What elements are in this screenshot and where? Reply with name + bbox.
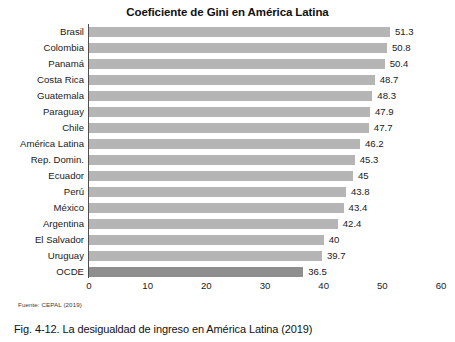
bar-track [89,171,353,181]
x-axis-tick-label: 0 [86,280,91,291]
bar-track [89,251,322,261]
bar-track [89,123,369,133]
category-label: Costa Rica [0,72,84,88]
x-axis-tick-label: 40 [318,280,329,291]
bar-row: Panamá50.4 [0,56,455,72]
bar [89,219,338,229]
category-label: Perú [0,184,84,200]
bar-value-label: 48.7 [380,72,399,88]
bar-row: México43.4 [0,200,455,216]
figure-container: Coeficiente de Gini en América Latina Br… [0,0,455,342]
bar-value-label: 43.8 [351,184,370,200]
plot-area: Brasil51.3Colombia50.8Panamá50.4Costa Ri… [0,24,455,280]
bar-value-label: 43.4 [349,200,368,216]
x-axis-tick-label: 60 [436,280,447,291]
bar-row: Perú43.8 [0,184,455,200]
category-label: Chile [0,120,84,136]
bar-track [89,91,372,101]
bar-value-label: 50.4 [390,56,409,72]
bar-row: Rep. Domin.45.3 [0,152,455,168]
bar [89,139,360,149]
bar-value-label: 50.8 [392,40,411,56]
category-label: Paraguay [0,104,84,120]
bar [89,75,375,85]
bar-track [89,267,303,277]
bar [89,155,355,165]
bar-row: El Salvador40 [0,232,455,248]
bar-track [89,75,375,85]
bar-value-label: 40 [329,232,340,248]
source-note: Fuente: CEPAL (2019) [18,301,82,308]
bar [89,235,324,245]
bar-track [89,43,387,53]
x-axis-tick-label: 30 [260,280,271,291]
category-label: Brasil [0,24,84,40]
bar [89,107,370,117]
category-label: América Latina [0,136,84,152]
bar-track [89,155,355,165]
bar-row: Uruguay39.7 [0,248,455,264]
bar [89,43,387,53]
x-axis-tick-label: 10 [142,280,153,291]
bar [89,251,322,261]
bar-track [89,187,346,197]
bar [89,27,390,37]
bar [89,59,385,69]
figure-caption: Fig. 4-12. La desigualdad de ingreso en … [14,323,312,335]
bar-row: Guatemala48.3 [0,88,455,104]
bar-track [89,107,370,117]
bar-row: Argentina42.4 [0,216,455,232]
bar [89,267,303,277]
category-label: Rep. Domin. [0,152,84,168]
bar-value-label: 45.3 [360,152,379,168]
category-label: Panamá [0,56,84,72]
bar-row: Ecuador45 [0,168,455,184]
bar-row: América Latina46.2 [0,136,455,152]
x-axis-tick-label: 20 [201,280,212,291]
bar-row: Colombia50.8 [0,40,455,56]
bar [89,123,369,133]
bar [89,203,344,213]
bar-value-label: 47.9 [375,104,394,120]
bar-value-label: 47.7 [374,120,393,136]
category-label: El Salvador [0,232,84,248]
chart-title: Coeficiente de Gini en América Latina [0,6,455,18]
bar-row: Chile47.7 [0,120,455,136]
bar-row: Brasil51.3 [0,24,455,40]
x-axis-tick-label: 50 [377,280,388,291]
bar-value-label: 42.4 [343,216,362,232]
category-label: Uruguay [0,248,84,264]
bar-track [89,235,324,245]
bar-track [89,219,338,229]
category-label: Colombia [0,40,84,56]
bar [89,187,346,197]
bar-track [89,27,390,37]
category-label: México [0,200,84,216]
x-axis: 0102030405060 [0,278,455,300]
category-label: Guatemala [0,88,84,104]
category-label: Argentina [0,216,84,232]
bar-row: Paraguay47.9 [0,104,455,120]
category-label: Ecuador [0,168,84,184]
bar-row: Costa Rica48.7 [0,72,455,88]
bar-value-label: 46.2 [365,136,384,152]
bar-value-label: 45 [358,168,369,184]
bar-track [89,139,360,149]
bar [89,91,372,101]
bar-value-label: 39.7 [327,248,346,264]
bar-track [89,59,385,69]
bar [89,171,353,181]
bar-value-label: 48.3 [377,88,396,104]
bar-value-label: 51.3 [395,24,414,40]
bar-track [89,203,344,213]
